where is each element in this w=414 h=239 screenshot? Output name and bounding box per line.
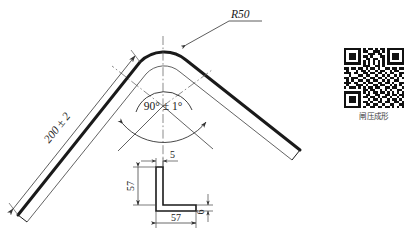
dimension-label-vertical-height: 57 [125, 181, 136, 191]
angle-dimension-label: 90° ± 1° [144, 100, 183, 112]
dimension-vertical-height [133, 167, 156, 205]
dimension-label-web-thickness: 5 [170, 149, 175, 160]
dimension-label-flange-width: 57 [171, 212, 181, 223]
length-dimension: 200 ± 2 [9, 50, 140, 215]
qr-code[interactable] [344, 48, 404, 108]
angle-leg-left [118, 106, 163, 151]
length-extension-line-end [131, 50, 140, 62]
angle-leg-right [163, 106, 213, 149]
radius-callout: R50 [186, 8, 262, 45]
angle-dimension: 90° ± 1° [118, 100, 213, 151]
length-dimension-line [13, 56, 135, 209]
right-end-cap [292, 150, 300, 160]
qr-caption: 闸压成形 [330, 112, 414, 122]
technical-drawing-canvas: 90° ± 1° R50 200 ± 2 [0, 0, 414, 239]
dimension-flange-thickness [196, 194, 213, 222]
l-profile-outline [156, 167, 196, 211]
cross-section-view: 5 57 57 6 [125, 149, 213, 228]
dimension-label-flange-thickness: 6 [195, 210, 206, 215]
radius-label: R50 [230, 8, 250, 20]
left-end-cap [18, 215, 27, 222]
radius-leader-line [186, 21, 229, 45]
